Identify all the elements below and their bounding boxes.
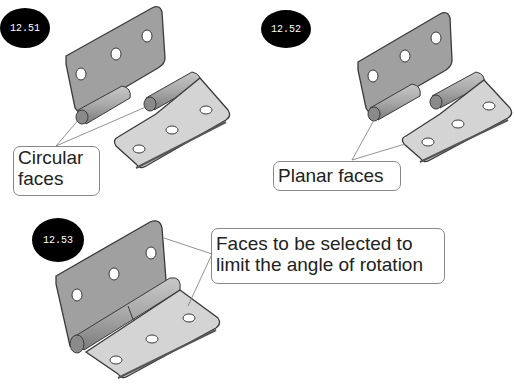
callout-line-1: Faces to be selected to [216, 233, 440, 254]
callout-circular-faces: Circular faces [13, 146, 100, 196]
callout-planar-faces: Planar faces [273, 161, 401, 191]
callout-line-1: Planar faces [278, 165, 396, 186]
figure-badge-12-53: 12.53 [32, 218, 84, 262]
figure-badge-12-51: 12.51 [0, 8, 50, 48]
callout-faces-to-select: Faces to be selected to limit the angle … [211, 228, 445, 284]
hinge-illustrations [0, 0, 514, 392]
hinge-exploded-planar [352, 13, 512, 162]
hinge-exploded-circular [56, 7, 230, 168]
callout-line-2: limit the angle of rotation [216, 254, 440, 275]
figure-badge-12-52: 12.52 [261, 10, 311, 48]
callout-line-1: Circular [18, 147, 95, 168]
callout-line-2: faces [18, 168, 95, 189]
